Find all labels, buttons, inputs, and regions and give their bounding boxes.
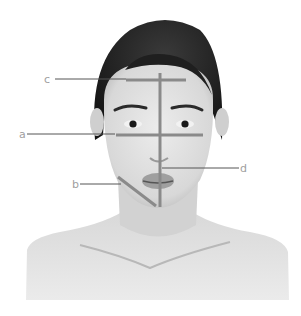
- label-a: a: [19, 128, 26, 141]
- portrait-figure: c a b d: [0, 0, 301, 316]
- left-ear: [90, 108, 104, 136]
- right-ear: [215, 108, 229, 136]
- left-iris: [129, 120, 136, 127]
- lips: [142, 173, 174, 189]
- label-c: c: [44, 73, 50, 86]
- label-b: b: [72, 178, 79, 191]
- label-d: d: [240, 162, 247, 175]
- right-iris: [181, 120, 188, 127]
